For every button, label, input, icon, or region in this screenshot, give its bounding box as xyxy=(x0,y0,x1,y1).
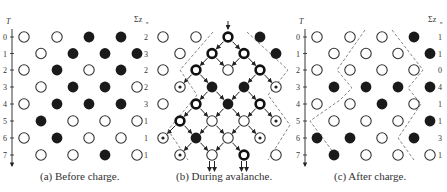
empty-site-icon xyxy=(345,65,355,75)
toppling-site-icon xyxy=(192,100,201,109)
empty-site-icon xyxy=(191,32,201,42)
empty-site-icon xyxy=(223,65,233,75)
empty-site-icon xyxy=(19,65,29,75)
row-sum: 1 xyxy=(438,117,442,126)
empty-site-icon xyxy=(68,150,78,160)
occupied-site-icon xyxy=(239,82,250,93)
row-label: 7 xyxy=(296,151,300,160)
axis-label-T: T xyxy=(299,17,304,26)
row-sum: 2 xyxy=(144,33,148,42)
cascade-arrow xyxy=(233,58,240,65)
toppling-site-icon xyxy=(256,100,265,109)
occupied-site-icon xyxy=(100,82,111,93)
cascade-arrow xyxy=(248,75,255,83)
sum-header: Σz xyxy=(428,15,437,24)
empty-site-icon xyxy=(132,116,142,126)
cascade-arrow xyxy=(200,92,207,100)
empty-site-icon xyxy=(68,116,78,126)
empty-site-icon xyxy=(312,32,322,42)
empty-site-icon xyxy=(271,150,281,160)
row-sum: 1 xyxy=(144,151,148,160)
cascade-arrow xyxy=(248,109,255,117)
occupied-site-icon xyxy=(409,32,420,43)
occupied-site-icon xyxy=(425,116,436,127)
occupied-site-icon xyxy=(52,65,63,76)
empty-site-icon xyxy=(132,150,142,160)
empty-site-icon xyxy=(345,99,355,109)
empty-site-icon xyxy=(345,32,355,42)
row-label: 2 xyxy=(296,66,300,75)
row-sum: 2 xyxy=(144,66,148,75)
occupied-site-icon xyxy=(377,99,388,110)
cascade-arrow xyxy=(184,109,191,117)
empty-site-icon xyxy=(175,48,185,58)
toppling-site-icon xyxy=(240,151,249,160)
occupied-site-icon xyxy=(68,48,79,59)
cascade-arrow xyxy=(200,143,207,151)
empty-site-icon xyxy=(377,133,387,143)
empty-site-icon xyxy=(52,32,62,42)
cascade-arrow xyxy=(216,126,223,134)
occupied-site-icon xyxy=(425,48,436,59)
empty-site-icon xyxy=(377,65,387,75)
row-label: 6 xyxy=(296,134,300,143)
empty-site-icon xyxy=(36,48,46,58)
cascade-arrow xyxy=(200,109,207,117)
cascade-arrow xyxy=(200,126,207,134)
occupied-site-icon xyxy=(425,82,436,93)
toppling-site-icon xyxy=(208,49,217,58)
empty-site-icon xyxy=(84,65,94,75)
svg-text:n: n xyxy=(146,20,149,25)
sum-header: Σz xyxy=(134,15,143,24)
row-label: 4 xyxy=(3,100,7,109)
occupied-site-icon xyxy=(52,99,63,110)
toppling-site-icon xyxy=(192,66,201,75)
empty-site-icon xyxy=(361,116,371,126)
row-sum: 1 xyxy=(438,100,442,109)
row-label: 0 xyxy=(296,33,300,42)
empty-site-icon xyxy=(312,65,322,75)
axis-label-T: T xyxy=(6,17,11,26)
empty-site-icon xyxy=(100,116,110,126)
cascade-arrow xyxy=(248,92,255,100)
occupied-site-icon xyxy=(100,150,111,161)
row-label: 3 xyxy=(296,83,300,92)
row-sum: 1 xyxy=(438,151,442,160)
empty-site-icon xyxy=(19,32,29,42)
cascade-arrow xyxy=(232,92,239,100)
empty-site-icon xyxy=(84,133,94,143)
row-sum: 3 xyxy=(144,50,148,59)
row-sum: 1 xyxy=(144,117,148,126)
empty-site-icon xyxy=(393,48,403,58)
caption-a: (a) Before charge. xyxy=(40,170,120,182)
cascade-arrow xyxy=(264,109,271,117)
toppling-site-icon xyxy=(240,49,249,58)
row-label: 7 xyxy=(3,151,7,160)
occupied-site-icon xyxy=(191,133,202,144)
empty-site-icon xyxy=(36,150,46,160)
row-label: 5 xyxy=(3,117,7,126)
cascade-arrow xyxy=(216,92,223,100)
empty-site-icon xyxy=(409,65,419,75)
occupied-site-icon xyxy=(329,150,340,161)
occupied-site-icon xyxy=(116,99,127,110)
occupied-site-icon xyxy=(409,133,420,144)
empty-site-icon xyxy=(36,82,46,92)
occupied-site-icon xyxy=(68,82,79,93)
empty-site-icon xyxy=(393,116,403,126)
toppling-site-icon xyxy=(176,117,185,126)
cascade-arrow xyxy=(217,58,224,65)
cascade-arrow xyxy=(232,126,239,134)
occupied-site-icon xyxy=(271,48,282,59)
row-label: 0 xyxy=(3,33,7,42)
row-sum: 3 xyxy=(438,134,442,143)
cascade-arrow xyxy=(201,58,208,65)
empty-site-icon xyxy=(158,32,168,42)
empty-site-icon xyxy=(158,65,168,75)
svg-text:n: n xyxy=(440,20,443,25)
cascade-arrow xyxy=(264,75,271,83)
row-sum: 0 xyxy=(438,66,442,75)
avalanche-boundary-right xyxy=(247,32,290,160)
empty-site-icon xyxy=(329,116,339,126)
occupied-site-icon xyxy=(84,99,95,110)
